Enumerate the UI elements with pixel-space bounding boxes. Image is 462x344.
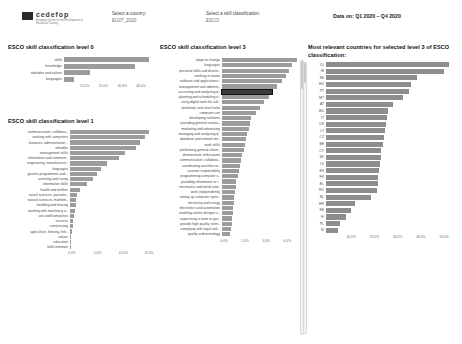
chart-bar[interactable] bbox=[70, 214, 74, 218]
chart-row[interactable]: agriculture, forestry, fish.. bbox=[4, 229, 154, 233]
chart-row[interactable]: working in teams bbox=[160, 74, 300, 78]
chart-bar[interactable] bbox=[326, 188, 377, 193]
chart-bar[interactable] bbox=[222, 74, 286, 78]
chart-row[interactable]: PL bbox=[312, 221, 458, 226]
chart-bar[interactable] bbox=[70, 198, 76, 202]
chart-row[interactable]: mechanics and metal trad.. bbox=[160, 185, 300, 189]
chart-row[interactable]: communication, collabora.. bbox=[160, 158, 300, 162]
chart-row[interactable]: assume responsibility bbox=[160, 169, 300, 173]
classification-selector-value[interactable]: ESCO bbox=[206, 18, 260, 24]
chart-bar[interactable] bbox=[326, 221, 340, 226]
chart-row[interactable]: computer use bbox=[160, 111, 300, 115]
chart-bar[interactable] bbox=[70, 229, 72, 233]
chart-bar[interactable] bbox=[222, 116, 251, 120]
chart-row[interactable]: skills bbox=[8, 57, 154, 62]
chart-bar[interactable] bbox=[326, 122, 386, 127]
chart-bar[interactable] bbox=[222, 201, 234, 205]
chart-bar[interactable] bbox=[222, 143, 245, 147]
chart-row[interactable]: handling and moving bbox=[4, 203, 154, 207]
chart-row[interactable]: field unknown bbox=[4, 245, 154, 249]
chart-row[interactable]: LU bbox=[312, 62, 458, 67]
chart-row[interactable]: languages bbox=[8, 77, 154, 82]
chart-row[interactable]: health and welfare bbox=[4, 188, 154, 192]
chart-row[interactable]: communication, collabora.. bbox=[4, 130, 154, 134]
chart-bar[interactable] bbox=[222, 84, 277, 88]
chart-bar[interactable] bbox=[222, 206, 233, 210]
chart-bar[interactable] bbox=[222, 195, 234, 199]
chart-bar[interactable] bbox=[222, 232, 230, 236]
chart-bar[interactable] bbox=[326, 75, 417, 80]
chart-bar[interactable] bbox=[70, 219, 73, 223]
chart-bar[interactable] bbox=[70, 209, 75, 213]
chart-bar[interactable] bbox=[222, 63, 292, 67]
chart-row[interactable]: personal skills and develo.. bbox=[160, 69, 300, 73]
chart-row[interactable]: FI bbox=[312, 214, 458, 219]
country-selector-value[interactable]: EU27_2020 bbox=[112, 18, 146, 24]
chart-row[interactable]: electronics and automation bbox=[160, 206, 300, 210]
chart-bar[interactable] bbox=[222, 100, 264, 104]
chart-bar[interactable] bbox=[222, 227, 231, 231]
chart-bar[interactable] bbox=[70, 182, 87, 186]
chart-bar[interactable] bbox=[222, 179, 236, 183]
chart-bar-selected[interactable] bbox=[222, 90, 272, 94]
chart-row[interactable]: IT bbox=[312, 115, 458, 120]
chart-row[interactable]: electricity and energy bbox=[160, 201, 300, 205]
chart-row[interactable]: RO bbox=[312, 188, 458, 193]
chart-bar[interactable] bbox=[326, 148, 381, 153]
chart-bar[interactable] bbox=[222, 148, 244, 152]
chart-row[interactable]: using digital tools for coll.. bbox=[160, 100, 300, 104]
chart-bar[interactable] bbox=[222, 95, 269, 99]
chart-row[interactable]: EE bbox=[312, 208, 458, 213]
chart-bar[interactable] bbox=[326, 201, 355, 206]
chart-row[interactable]: management and adminis.. bbox=[160, 84, 300, 88]
chart-row[interactable]: demonstrate enthusiasm bbox=[160, 153, 300, 157]
chart-bar[interactable] bbox=[222, 190, 235, 194]
chart-row[interactable]: providing information to t.. bbox=[160, 179, 300, 183]
chart-row[interactable]: providing general assista.. bbox=[160, 121, 300, 125]
chart-bar[interactable] bbox=[326, 168, 379, 173]
chart-row[interactable]: SE bbox=[312, 75, 458, 80]
chart-row[interactable]: programming computer s.. bbox=[160, 174, 300, 178]
chart-bar[interactable] bbox=[326, 82, 411, 87]
chart-bar[interactable] bbox=[222, 79, 282, 83]
chart-bar[interactable] bbox=[222, 222, 232, 226]
chart-row[interactable]: attitudes bbox=[4, 146, 154, 150]
chart-bar[interactable] bbox=[326, 89, 409, 94]
chart-row[interactable]: BE bbox=[312, 142, 458, 147]
chart-row[interactable]: engineering, manufacturin.. bbox=[4, 161, 154, 165]
chart-bar[interactable] bbox=[326, 69, 444, 74]
chart-bar[interactable] bbox=[326, 108, 388, 113]
chart-bar[interactable] bbox=[326, 214, 346, 219]
chart-row[interactable]: NL bbox=[312, 195, 458, 200]
chart-bar[interactable] bbox=[70, 224, 73, 228]
chart-row[interactable]: provide high quality client.. bbox=[160, 222, 300, 226]
chart-row[interactable]: generic programmes and .. bbox=[4, 172, 154, 176]
chart-bar[interactable] bbox=[326, 95, 403, 100]
chart-row[interactable]: values bbox=[4, 235, 154, 239]
chart-bar[interactable] bbox=[70, 135, 145, 139]
chart-bar[interactable] bbox=[326, 228, 338, 233]
chart-row[interactable]: languages bbox=[4, 167, 154, 171]
chart-row[interactable]: planning and scheduling e.. bbox=[160, 95, 300, 99]
chart-bar[interactable] bbox=[222, 132, 247, 136]
chart-bar[interactable] bbox=[70, 172, 97, 176]
country-selector[interactable]: Select a country: EU27_2020 bbox=[112, 11, 146, 24]
chart-row[interactable]: complying with legal and .. bbox=[160, 227, 300, 231]
chart-row[interactable]: ES bbox=[312, 168, 458, 173]
chart-bar[interactable] bbox=[70, 161, 107, 165]
chart-row[interactable]: PT bbox=[312, 89, 458, 94]
chart-row[interactable]: IE bbox=[312, 69, 458, 74]
chart-bar[interactable] bbox=[222, 211, 233, 215]
chart-bar[interactable] bbox=[326, 175, 378, 180]
chart-row[interactable]: working with machinery a.. bbox=[4, 209, 154, 213]
chart-bar[interactable] bbox=[70, 151, 125, 155]
chart-bar[interactable] bbox=[326, 181, 378, 186]
chart-bar[interactable] bbox=[222, 174, 238, 178]
chart-row[interactable]: LV bbox=[312, 161, 458, 166]
chart-bar[interactable] bbox=[222, 164, 240, 168]
chart-row[interactable]: HR bbox=[312, 201, 458, 206]
chart-bar[interactable] bbox=[326, 161, 380, 166]
chart-row[interactable]: constructing bbox=[4, 224, 154, 228]
chart-row[interactable]: work independently bbox=[160, 190, 300, 194]
chart-row[interactable]: BG bbox=[312, 108, 458, 113]
